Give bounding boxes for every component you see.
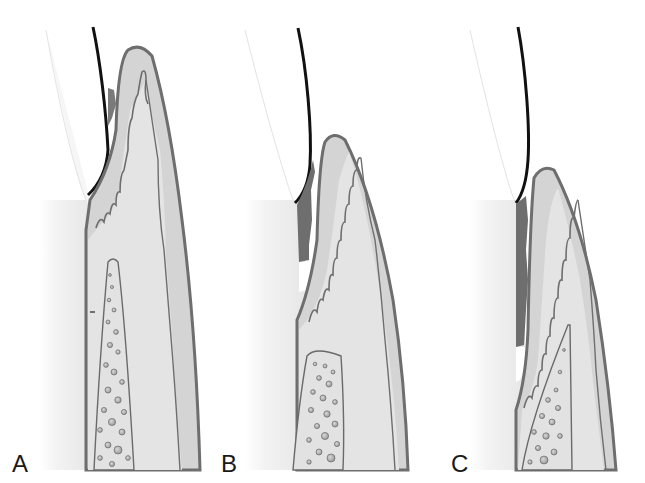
enamel-line (295, 28, 310, 203)
calculus (108, 88, 116, 126)
panel-a: A (0, 0, 215, 483)
panel-label-a: A (12, 452, 28, 476)
panel-b-illustration (215, 0, 430, 483)
panel-a-illustration (0, 0, 215, 483)
panel-b: B (215, 0, 430, 483)
panel-c: C (430, 0, 645, 483)
panel-c-illustration (430, 0, 645, 483)
calculus (297, 160, 315, 262)
enamel-line (516, 27, 529, 203)
panel-label-c: C (451, 452, 468, 476)
panel-label-b: B (221, 452, 237, 476)
calculus (516, 196, 528, 347)
